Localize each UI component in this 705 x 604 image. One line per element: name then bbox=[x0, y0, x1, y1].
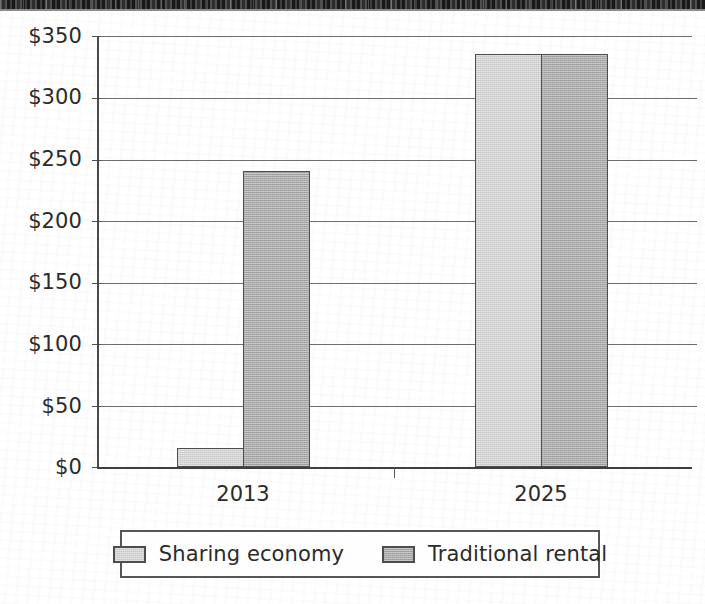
y-tick-label-50: $50 bbox=[0, 394, 82, 418]
swatch-texture bbox=[384, 548, 413, 561]
y-axis-right-tick-200 bbox=[688, 221, 697, 222]
swatch-texture bbox=[115, 548, 144, 561]
y-axis-right-tick-100 bbox=[688, 344, 697, 345]
bar-2025-sharing-economy bbox=[475, 54, 542, 467]
y-tick-label-150: $150 bbox=[0, 270, 82, 294]
y-tick-label-200: $200 bbox=[0, 209, 82, 233]
gridline-350 bbox=[97, 36, 692, 37]
y-tick-label-100: $100 bbox=[0, 332, 82, 356]
legend-label-traditional-rental: Traditional rental bbox=[428, 542, 607, 566]
bar-chart: $350 $300 $250 $200 $150 $100 $50 $0 bbox=[0, 0, 705, 604]
bar-2013-sharing-economy bbox=[177, 448, 244, 467]
x-axis-group-divider-tick bbox=[394, 468, 395, 478]
light-swatch-icon bbox=[113, 546, 146, 563]
y-axis-right-tick-300 bbox=[688, 98, 697, 99]
dark-swatch-icon bbox=[382, 546, 415, 563]
bar-texture bbox=[178, 449, 243, 466]
y-tick-label-350: $350 bbox=[0, 24, 82, 48]
bar-2013-traditional-rental bbox=[243, 171, 310, 467]
y-tick-label-0: $0 bbox=[0, 455, 82, 479]
y-tick-label-300: $300 bbox=[0, 85, 82, 109]
y-tick-label-250: $250 bbox=[0, 147, 82, 171]
legend-entry-traditional-rental: Traditional rental bbox=[382, 542, 607, 566]
chart-legend: Sharing economy Traditional rental bbox=[120, 530, 600, 578]
y-axis-line bbox=[97, 36, 99, 469]
x-tick-label-2013: 2013 bbox=[193, 482, 293, 506]
y-axis-right-tick-250 bbox=[688, 160, 697, 161]
legend-entry-sharing-economy: Sharing economy bbox=[113, 542, 344, 566]
x-tick-label-2025: 2025 bbox=[491, 482, 591, 506]
bar-texture bbox=[476, 55, 541, 466]
y-axis-right-tick-50 bbox=[688, 406, 697, 407]
bar-texture bbox=[542, 55, 607, 466]
y-axis-right-tick-150 bbox=[688, 283, 697, 284]
bar-2025-traditional-rental bbox=[541, 54, 608, 467]
legend-label-sharing-economy: Sharing economy bbox=[159, 542, 344, 566]
bar-texture bbox=[244, 172, 309, 466]
